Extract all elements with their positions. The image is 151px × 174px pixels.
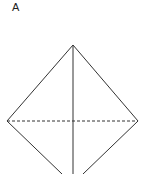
diamond-diagram (0, 0, 151, 174)
lower-right-edge (83, 121, 138, 174)
upper-right-edge (73, 45, 138, 121)
lower-left-edge (7, 121, 62, 174)
upper-left-edge (7, 45, 73, 121)
